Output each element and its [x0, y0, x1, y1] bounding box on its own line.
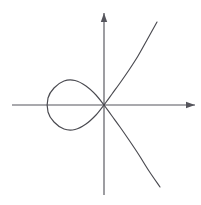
plot-figure [0, 0, 201, 205]
curve-lower-right-branch-path [104, 105, 160, 187]
plot-canvas [0, 0, 201, 205]
y-axis-group [101, 13, 107, 195]
curve-upper-right-branch-path [104, 22, 157, 105]
y-axis-arrow-icon [101, 13, 107, 22]
x-axis-arrow-icon [186, 102, 195, 108]
